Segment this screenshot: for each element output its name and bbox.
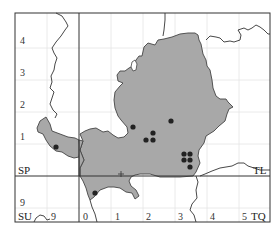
axis-label-0: 0 [83,211,88,222]
axis-label-4: 4 [20,35,25,46]
axis-label-9-bottom: 9 [51,211,56,222]
record-dot [92,190,97,195]
record-dot [181,151,186,156]
record-dot [187,151,192,156]
grid-square-tq: TQ [251,210,266,222]
axis-label-3-bottom: 3 [178,211,183,222]
record-dot [143,137,148,142]
axis-label-1-bottom: 1 [115,211,120,222]
axis-label-1: 1 [20,131,25,142]
record-dot [187,157,192,162]
distribution-map: 4 3 2 1 9 9 0 1 2 3 4 5 SP TL SU TQ [0,0,280,235]
record-dot [150,137,155,142]
axis-label-2-bottom: 2 [146,211,151,222]
axis-label-4-bottom: 4 [210,211,215,222]
axis-label-9-left: 9 [20,197,25,208]
record-dot [168,118,173,123]
grid-square-su: SU [18,210,32,222]
grid-square-sp: SP [18,164,30,176]
record-dot [53,144,58,149]
record-dot [181,157,186,162]
record-dot [150,130,155,135]
northern-inlet [131,60,137,71]
record-dot [187,164,192,169]
axis-label-5-bottom: 5 [242,211,247,222]
axis-label-2: 2 [20,99,25,110]
grid-square-tl: TL [253,164,267,176]
axis-label-3: 3 [20,67,25,78]
record-dot [130,124,135,129]
